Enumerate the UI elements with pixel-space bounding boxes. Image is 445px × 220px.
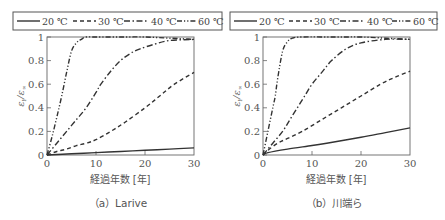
panel-b: 20 ℃ 30 ℃ 40 ℃ 60 ℃ 0 0.2 0.4 0.6 0.8 1	[230, 12, 439, 209]
chart-canvas: 20 ℃ 30 ℃ 40 ℃ 60 ℃ 0 0.2 0.4 0.6 0.8 1	[0, 0, 445, 220]
series-40c-a	[47, 39, 194, 155]
svg-text:0: 0	[260, 158, 266, 169]
svg-text:εt/ε∞: εt/ε∞	[15, 85, 27, 107]
svg-text:10: 10	[90, 158, 103, 169]
caption-b: （b）川端ら	[306, 197, 363, 209]
svg-text:20: 20	[139, 158, 152, 169]
svg-text:1: 1	[254, 32, 260, 43]
legend-label-30: 30 ℃	[98, 16, 124, 27]
series-40c-b	[263, 39, 410, 155]
svg-text:0.2: 0.2	[244, 126, 260, 137]
caption-a: （a）Larive	[89, 197, 148, 209]
svg-text:0.4: 0.4	[28, 102, 44, 113]
legend-label-60: 60 ℃	[198, 16, 224, 27]
svg-text:0.8: 0.8	[244, 55, 260, 66]
y-tick-labels-b: 0 0.2 0.4 0.6 0.8 1	[244, 32, 260, 161]
curves-a	[47, 37, 194, 155]
svg-text:0.6: 0.6	[244, 79, 260, 90]
x-axis-label-a: 経過年数 [年]	[90, 173, 151, 185]
svg-text:20: 20	[355, 158, 368, 169]
svg-text:30: 30	[188, 158, 201, 169]
legend-label-60: 60 ℃	[413, 16, 439, 27]
y-axis-label-b: εt/ε∞	[231, 85, 243, 107]
y-axis-label-a: εt/ε∞	[15, 85, 27, 107]
series-20c-b	[263, 128, 410, 155]
svg-text:0: 0	[44, 158, 50, 169]
y-tick-labels-a: 0 0.2 0.4 0.6 0.8 1	[28, 32, 44, 161]
x-ticks-b	[312, 151, 361, 155]
legend-label-40: 40 ℃	[367, 16, 393, 27]
series-30c-b	[263, 71, 410, 155]
y-ticks-a	[47, 37, 51, 155]
curves-b	[263, 37, 410, 155]
series-30c-a	[47, 72, 194, 155]
legend-label-20: 20 ℃	[259, 16, 285, 27]
legend-a: 20 ℃ 30 ℃ 40 ℃ 60 ℃	[13, 12, 224, 30]
plot-frame-b	[263, 37, 410, 155]
svg-text:30: 30	[404, 158, 417, 169]
series-60c-b	[263, 37, 410, 155]
legend-label-40: 40 ℃	[151, 16, 177, 27]
svg-text:10: 10	[306, 158, 319, 169]
plot-frame-a	[47, 37, 194, 155]
x-tick-labels-b: 0 10 20 30	[260, 158, 417, 169]
svg-text:1: 1	[38, 32, 44, 43]
legend-label-20: 20 ℃	[42, 16, 68, 27]
svg-text:0.4: 0.4	[244, 102, 260, 113]
svg-text:0.6: 0.6	[28, 79, 44, 90]
legend-b: 20 ℃ 30 ℃ 40 ℃ 60 ℃	[230, 12, 439, 30]
panel-a: 20 ℃ 30 ℃ 40 ℃ 60 ℃ 0 0.2 0.4 0.6 0.8 1	[13, 12, 224, 209]
x-tick-labels-a: 0 10 20 30	[44, 158, 201, 169]
svg-text:0.2: 0.2	[28, 126, 44, 137]
svg-text:εt/ε∞: εt/ε∞	[231, 85, 243, 107]
legend-label-30: 30 ℃	[314, 16, 340, 27]
svg-text:0.8: 0.8	[28, 55, 44, 66]
x-axis-label-b: 経過年数 [年]	[306, 173, 367, 185]
series-60c-a	[47, 37, 194, 155]
